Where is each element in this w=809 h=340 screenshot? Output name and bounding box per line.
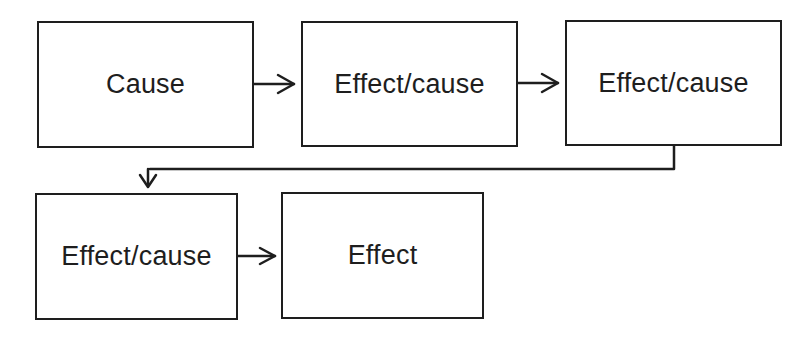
node-label: Effect/cause <box>598 68 749 99</box>
node-label: Effect/cause <box>61 241 212 272</box>
node-effect-cause-3: Effect/cause <box>35 193 238 320</box>
arrow-n4-n5 <box>238 248 275 264</box>
node-cause: Cause <box>37 21 254 148</box>
node-effect: Effect <box>281 192 484 319</box>
node-effect-cause-2: Effect/cause <box>565 20 782 146</box>
node-label: Effect/cause <box>334 69 485 100</box>
node-label: Effect <box>348 240 418 271</box>
arrow-n3-n4 <box>140 146 674 187</box>
arrow-n1-n2 <box>254 75 294 93</box>
node-label: Cause <box>106 69 185 100</box>
node-effect-cause-1: Effect/cause <box>301 21 518 147</box>
arrow-n2-n3 <box>518 74 558 92</box>
